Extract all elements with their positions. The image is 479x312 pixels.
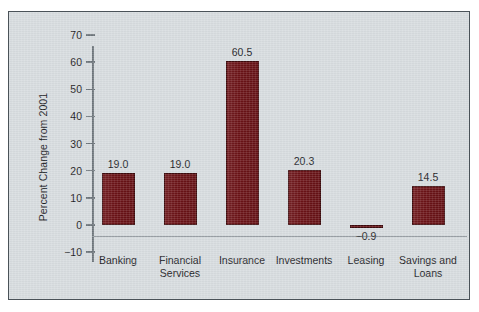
y-axis-tick xyxy=(86,224,95,226)
bar xyxy=(288,170,321,225)
bar xyxy=(226,61,259,225)
y-axis-title-text: Percent Change from 2001 xyxy=(37,72,49,242)
bar-value-label: 19.0 xyxy=(150,158,210,170)
y-axis-tick xyxy=(86,251,95,253)
y-axis-tick-label: 0 xyxy=(54,219,82,231)
bar xyxy=(412,186,445,225)
y-axis-tick-label: −10 xyxy=(54,246,82,258)
y-axis-tick-label: 30 xyxy=(54,138,82,150)
y-axis-tick xyxy=(86,89,95,91)
y-axis-tick-label: 10 xyxy=(54,192,82,204)
bar-value-label: 60.5 xyxy=(212,46,272,58)
bar-value-label: 20.3 xyxy=(274,155,334,167)
y-axis-tick xyxy=(86,34,95,36)
y-axis-title: Percent Change from 2001 xyxy=(37,72,53,242)
y-axis-tick-label: 40 xyxy=(54,110,82,122)
chart-plate: Percent Change from 2001 −10010203040506… xyxy=(8,11,470,300)
y-axis-tick xyxy=(86,116,95,118)
bar xyxy=(102,173,135,225)
y-axis-tick-label: 50 xyxy=(54,83,82,95)
y-axis-tick-label: 60 xyxy=(54,56,82,68)
bar-value-label: −0.9 xyxy=(336,230,396,242)
bar-value-label: 19.0 xyxy=(88,158,148,170)
zero-baseline xyxy=(92,236,467,238)
y-axis-tick xyxy=(86,197,95,199)
chart-figure: Percent Change from 2001 −10010203040506… xyxy=(0,0,479,312)
bar xyxy=(164,173,197,225)
y-axis-tick xyxy=(86,143,95,145)
bar-value-label: 14.5 xyxy=(398,171,458,183)
y-axis-tick-label: 20 xyxy=(54,165,82,177)
y-axis-tick-label: 70 xyxy=(54,29,82,41)
category-label: Savings and Loans xyxy=(391,254,465,280)
y-axis-tick xyxy=(86,61,95,63)
y-axis-line xyxy=(92,46,94,262)
bar xyxy=(350,225,383,228)
